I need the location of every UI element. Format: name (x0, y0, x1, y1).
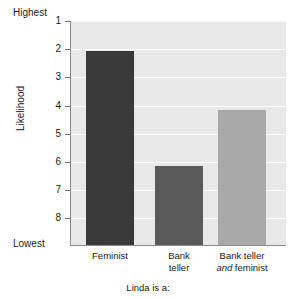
y-axis-tick-label: 4 (35, 101, 61, 111)
gridline (71, 21, 286, 22)
bar-2 (155, 166, 203, 245)
x-axis-line (70, 245, 286, 246)
plot-area (71, 21, 286, 245)
y-axis-tick-mark (65, 190, 70, 191)
y-axis-tick-mark (65, 77, 70, 78)
y-axis-title: Likelihood (15, 64, 26, 154)
bar-chart-figure: Highest Lowest Likelihood 12345678 Femin… (0, 0, 296, 299)
y-axis-tick-mark (65, 106, 70, 107)
x-axis-category-label-3: Bank tellerand feminist (197, 250, 287, 273)
y-axis-line (70, 21, 71, 246)
category-label-line2: and feminist (197, 262, 287, 274)
y-axis-tick-mark (65, 218, 70, 219)
y-axis-tick-mark (65, 49, 70, 50)
y-axis-tick-mark (65, 21, 70, 22)
y-axis-tick-mark (65, 162, 70, 163)
y-axis-lowest-annotation: Lowest (13, 238, 45, 249)
y-axis-tick-label: 1 (35, 16, 61, 26)
y-axis-tick-label: 7 (35, 185, 61, 195)
category-label-line1: Bank teller (197, 250, 287, 262)
category-label-emphasis: and (216, 262, 232, 273)
bar-1 (86, 51, 134, 245)
bar-3 (218, 110, 266, 245)
y-axis-tick-label: 5 (35, 129, 61, 139)
y-axis-tick-label: 3 (35, 72, 61, 82)
x-axis-title: Linda is a: (0, 282, 296, 293)
y-axis-tick-label: 8 (35, 213, 61, 223)
y-axis-tick-label: 2 (35, 44, 61, 54)
y-axis-tick-label: 6 (35, 157, 61, 167)
y-axis-tick-mark (65, 134, 70, 135)
